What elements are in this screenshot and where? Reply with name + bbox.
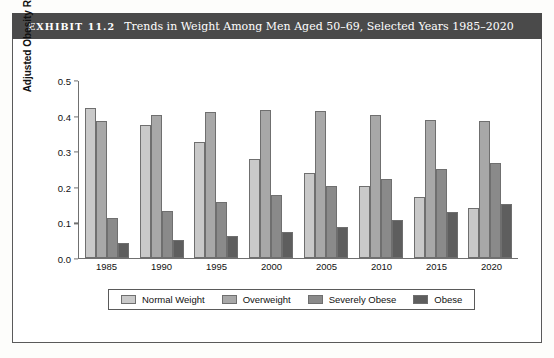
bar-group [140, 81, 184, 258]
bar-group [249, 81, 293, 258]
legend-swatch-icon [222, 295, 237, 304]
y-tick-mark [74, 152, 78, 153]
bar [249, 159, 260, 258]
legend-label: Obese [434, 294, 462, 305]
legend-swatch-icon [413, 295, 428, 304]
bar [359, 186, 370, 258]
x-tick-label: 2010 [358, 261, 406, 272]
bar [216, 202, 227, 257]
x-tick-label: 2020 [468, 261, 516, 272]
x-axis-ticks: 19851990199520002005201020152020 [79, 261, 519, 272]
x-tick-label: 2005 [303, 261, 351, 272]
x-tick-label: 2000 [248, 261, 296, 272]
bar-groups [79, 81, 518, 258]
bar [414, 197, 425, 258]
bar [337, 227, 348, 258]
x-axis-line [78, 258, 518, 259]
legend-item[interactable]: Obese [413, 294, 462, 305]
bar [447, 212, 458, 258]
bar [392, 220, 403, 257]
x-tick-label: 2015 [413, 261, 461, 272]
y-tick-mark [74, 258, 78, 259]
bar [370, 115, 381, 257]
bar [194, 142, 205, 258]
x-tick-label: 1985 [83, 261, 131, 272]
y-tick-mark [74, 116, 78, 117]
bar [140, 125, 151, 257]
legend-swatch-icon [121, 295, 136, 304]
legend-item[interactable]: Normal Weight [121, 294, 205, 305]
bar [501, 204, 512, 258]
exhibit-number-label: EXHIBIT 11.2 [28, 21, 115, 32]
legend-item[interactable]: Severely Obese [308, 294, 397, 305]
legend-item[interactable]: Overweight [222, 294, 291, 305]
legend-label: Overweight [243, 294, 291, 305]
y-tick-mark [74, 80, 78, 81]
legend-label: Severely Obese [329, 294, 397, 305]
bar [173, 240, 184, 258]
bar [326, 186, 337, 257]
bar-group [85, 81, 129, 258]
bar [118, 243, 129, 257]
y-tick-mark [74, 187, 78, 188]
bar [381, 179, 392, 258]
bar [227, 236, 238, 257]
bar [282, 232, 293, 258]
bar-group [194, 81, 238, 258]
legend-swatch-icon [308, 295, 323, 304]
y-axis-label: Adjusted Obesity Rate [22, 0, 33, 109]
bar [436, 169, 447, 257]
exhibit-figure: EXHIBIT 11.2 Trends in Weight Among Men … [0, 0, 554, 358]
legend-label: Normal Weight [142, 294, 205, 305]
bar [304, 173, 315, 258]
bar-group [468, 81, 512, 258]
bar [425, 120, 436, 257]
bar [490, 163, 501, 257]
bar [468, 208, 479, 258]
bar [162, 211, 173, 257]
bar [260, 110, 271, 258]
bar-group [414, 81, 458, 258]
exhibit-header-band: EXHIBIT 11.2 Trends in Weight Among Men … [12, 13, 542, 39]
bar [107, 218, 118, 258]
x-tick-label: 1995 [193, 261, 241, 272]
bar [85, 108, 96, 258]
bar [315, 111, 326, 258]
bar [151, 115, 162, 257]
chart-axes: 0.00.10.20.30.40.5 [78, 81, 518, 259]
bar [271, 195, 282, 257]
bar [479, 121, 490, 258]
bar [205, 112, 216, 258]
bar-group [359, 81, 403, 258]
y-tick-mark [74, 223, 78, 224]
chart-legend: Normal WeightOverweightSeverely ObeseObe… [108, 289, 475, 310]
exhibit-title: Trends in Weight Among Men Aged 50–69, S… [124, 20, 513, 33]
x-tick-label: 1990 [138, 261, 186, 272]
chart-plot-area: Adjusted Obesity Rate 0.00.10.20.30.40.5… [12, 39, 542, 343]
bar-group [304, 81, 348, 258]
bar [96, 121, 107, 258]
